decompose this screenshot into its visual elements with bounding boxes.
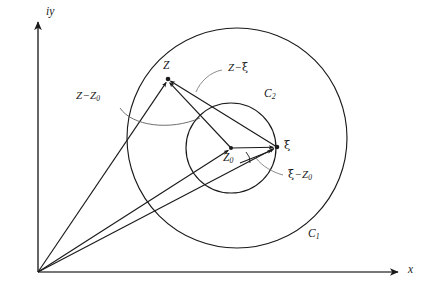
point-label-Z0: Z0 xyxy=(223,152,233,164)
vector-origin-to-xi xyxy=(38,149,274,272)
point-label-Z: Z xyxy=(163,60,169,72)
vector-label-xi-minus-Z0: ξ−Z0 xyxy=(288,169,312,180)
circle-label-C2: C2 xyxy=(264,88,276,100)
leader-line-Z-minus-Z0 xyxy=(120,108,200,125)
minus-sign: − xyxy=(234,61,242,73)
axes-group xyxy=(38,22,398,272)
xi-inner-arrow xyxy=(240,150,272,163)
y-axis-label: iy xyxy=(46,6,54,18)
vector-label-Z-minus-xi-term2: ξ xyxy=(242,61,248,74)
vector-label-Z-minus-xi: Z−ξ xyxy=(228,62,248,73)
leader-line-Z-minus-xi xyxy=(196,70,222,92)
minus-sign: − xyxy=(82,89,90,101)
leader-lines-group xyxy=(120,70,283,175)
point-label-xi: ξ xyxy=(284,140,290,152)
circle-label-C1-base: C xyxy=(308,227,316,239)
complex-plane-figure: iy x Z Z0 ξ C1 C2 Z−Z0 Z−ξ ξ−Z0 xyxy=(0,0,431,287)
point-label-Z0-subscript: 0 xyxy=(229,156,233,165)
vector-Z0-to-xi xyxy=(231,147,273,148)
figure-canvas xyxy=(0,0,431,287)
vector-label-Z-minus-Z0: Z−Z0 xyxy=(76,90,100,101)
vector-origin-to-Z xyxy=(38,82,166,272)
vector-Z0-to-Z xyxy=(170,83,231,148)
vector-label-xi-minus-Z0-subscript: 0 xyxy=(308,173,312,182)
circle-label-C1: C1 xyxy=(308,228,320,240)
origin-vectors-group xyxy=(38,82,274,272)
leader-line-xi-minus-Z0 xyxy=(256,158,283,175)
x-axis-label: x xyxy=(408,264,413,276)
vector-origin-to-Z0 xyxy=(38,150,228,272)
point-Z0-dot xyxy=(229,146,233,150)
point-xi-dot xyxy=(275,145,280,150)
circle-label-C1-subscript: 1 xyxy=(316,232,320,241)
minus-sign: − xyxy=(294,168,302,180)
xi-inner-arrow-group xyxy=(240,150,272,163)
vector-label-Z-minus-Z0-subscript: 0 xyxy=(96,94,100,103)
circle-label-C2-subscript: 2 xyxy=(272,92,276,101)
circle-label-C2-base: C xyxy=(264,87,272,99)
point-Z-dot xyxy=(166,77,171,82)
